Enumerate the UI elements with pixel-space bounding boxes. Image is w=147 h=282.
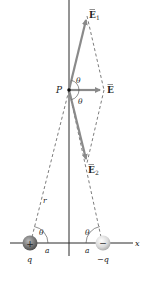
point-p-label: P [55,85,63,95]
label-e1: E 1 [89,10,100,22]
x-axis-label: x [135,239,140,248]
svg-text:E: E [88,165,95,175]
point-p [67,88,71,92]
dipole-field-diagram: x P θ θ E 1 E E 2 r θ θ a a [0,0,147,282]
positive-charge: + [23,236,38,251]
theta-label-upper: θ [76,76,81,85]
r-line-positive [32,90,69,237]
negative-charge: − [96,236,111,251]
svg-text:2: 2 [95,169,99,176]
field-vectors [69,20,100,159]
theta-label-positive: θ [39,228,44,237]
parallelogram-upper [87,16,104,90]
svg-text:E: E [89,10,96,20]
a-label-right: a [85,246,89,255]
r-label: r [43,196,47,205]
svg-text:E: E [107,85,114,95]
svg-text:1: 1 [96,14,100,21]
theta-label-lower: θ [78,97,83,106]
theta-label-negative: θ [85,228,90,237]
svg-text:+: + [26,239,34,249]
positive-charge-label: q [27,255,32,264]
a-label-left: a [45,246,49,255]
parallelogram-lower [87,90,104,163]
svg-text:−: − [99,238,107,248]
label-e2: E 2 [88,165,99,177]
negative-charge-label: −q [97,255,109,264]
label-e: E [107,85,114,96]
